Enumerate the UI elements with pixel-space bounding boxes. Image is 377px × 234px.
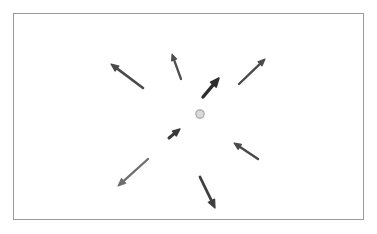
plot-border (14, 14, 364, 220)
center-fixation-dot (196, 110, 204, 118)
figure-container (0, 0, 377, 234)
arrow-field-canvas (0, 0, 377, 234)
